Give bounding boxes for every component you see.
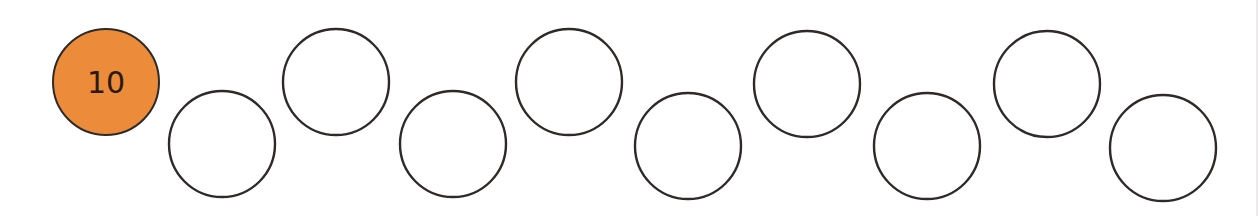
empty-circle[interactable] [994, 31, 1100, 137]
empty-circle[interactable] [754, 31, 860, 137]
empty-circle[interactable] [283, 29, 389, 135]
sequence-circle[interactable] [169, 91, 275, 197]
sequence-circle[interactable] [400, 91, 506, 197]
page-edge-divider [1256, 0, 1258, 216]
sequence-circle[interactable] [994, 31, 1100, 137]
empty-circle[interactable] [635, 93, 741, 199]
sequence-circle[interactable] [635, 93, 741, 199]
sequence-circle[interactable] [1110, 95, 1216, 201]
sequence-circle: 10 [53, 29, 159, 135]
sequence-circle[interactable] [516, 29, 622, 135]
empty-circle[interactable] [169, 91, 275, 197]
empty-circle[interactable] [874, 93, 980, 199]
empty-circle[interactable] [400, 91, 506, 197]
sequence-circle[interactable] [754, 31, 860, 137]
empty-circle[interactable] [516, 29, 622, 135]
number-sequence-diagram: 10 [0, 0, 1259, 216]
sequence-circle[interactable] [283, 29, 389, 135]
sequence-circle[interactable] [874, 93, 980, 199]
circle-label: 10 [87, 65, 125, 100]
empty-circle[interactable] [1110, 95, 1216, 201]
